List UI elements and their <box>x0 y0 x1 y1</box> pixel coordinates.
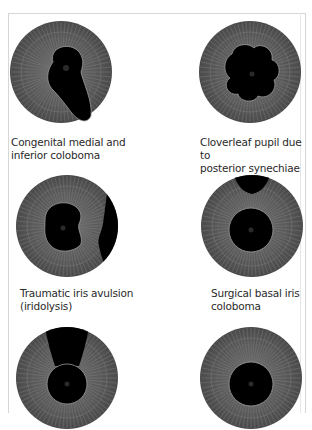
iris-congenital-coloboma <box>9 20 113 124</box>
iris-cloverleaf-pupil <box>198 20 302 124</box>
caption-line: Cloverleaf pupil due to <box>200 136 312 162</box>
iris-keyhole-superior <box>15 326 119 430</box>
caption-cloverleaf-pupil: Cloverleaf pupil due to posterior synech… <box>200 136 312 175</box>
caption-line: inferior coloboma <box>11 149 125 162</box>
iris-surgical-basal-coloboma <box>200 174 304 278</box>
caption-line: (iridolysis) <box>20 300 133 313</box>
caption-congenital-coloboma: Congenital medial and inferior coloboma <box>11 136 125 162</box>
caption-line: coloboma <box>211 300 300 313</box>
caption-traumatic-avulsion: Traumatic iris avulsion (iridolysis) <box>20 287 133 313</box>
caption-surgical-basal-coloboma: Surgical basal iris coloboma <box>211 287 300 313</box>
iris-round-pupil <box>199 326 303 430</box>
iris-traumatic-avulsion <box>15 174 119 278</box>
caption-line: Congenital medial and <box>11 136 125 149</box>
caption-line: Surgical basal iris <box>211 287 300 300</box>
caption-line: Traumatic iris avulsion <box>20 287 133 300</box>
